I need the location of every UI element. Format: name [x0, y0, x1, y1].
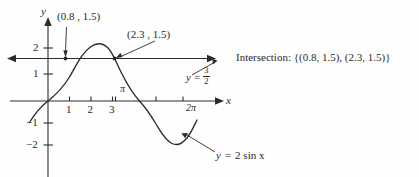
y-tick-label-2: 2 [33, 42, 39, 53]
constant-line-label-eq: = [194, 71, 200, 83]
y-tick-label-1: 1 [33, 68, 39, 79]
constant-line-y-equals-three-halves [7, 55, 216, 62]
y-axis [44, 17, 51, 177]
x-tick-label-3: 3 [109, 104, 115, 115]
y-tick-label-minus-2: −2 [26, 139, 38, 150]
constant-line-label-lhs: y [186, 71, 191, 83]
coordinate-plot-svg [0, 0, 419, 177]
constant-line-denominator: 2 [203, 77, 210, 86]
leader-line-point-one [63, 27, 67, 58]
leader-line-point-two [116, 41, 156, 58]
sine-curve-label-eq: = [225, 149, 231, 161]
intersection-annotation: Intersection: {(0.8, 1.5), (2.3, 1.5)} [236, 52, 390, 63]
x-tick-label-2: 2 [88, 104, 94, 115]
y-axis-label: y [41, 6, 46, 17]
x-tick-label-two-pi: 2π [186, 103, 196, 113]
x-axis-ticks [70, 97, 184, 102]
point-label-first-intersection: (0.8 , 1.5) [57, 11, 100, 22]
point-label-second-intersection: (2.3 , 1.5) [127, 29, 170, 40]
leader-line-curve [182, 133, 216, 152]
y-tick-label-minus-1: −1 [26, 117, 38, 128]
constant-line-fraction: 32 [203, 66, 210, 86]
x-tick-label-1: 1 [66, 104, 72, 115]
constant-line-label: y=32 [186, 68, 210, 88]
sine-curve-label: y=2 sin x [216, 150, 264, 161]
x-axis-label: x [226, 95, 231, 106]
x-tick-label-pi: π [120, 84, 125, 94]
sine-curve-label-rhs: 2 sin x [235, 149, 264, 161]
sine-curve-label-lhs: y [216, 149, 221, 161]
graph-figure: y x 1 2 3 π 2π 2 1 −1 −2 (0.8 , 1.5) (2.… [0, 0, 419, 177]
